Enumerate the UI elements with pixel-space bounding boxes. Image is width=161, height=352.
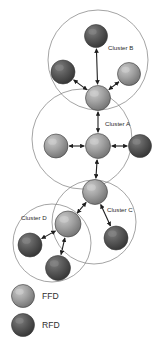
node-b-left-rfd xyxy=(51,60,75,84)
node-c-right-rfd-body xyxy=(104,226,128,250)
node-d-hub-ffd xyxy=(55,211,81,237)
node-a-right-rfd-highlight xyxy=(132,139,140,145)
node-d-bottom-rfd xyxy=(46,256,71,281)
label-cluster-b: Cluster B xyxy=(108,44,133,51)
node-b-top-rfd xyxy=(85,25,108,48)
node-a-left-ffd xyxy=(44,134,68,158)
node-b-hub-ffd-body xyxy=(86,86,111,111)
node-b-hub-ffd-highlight xyxy=(90,90,99,97)
node-c-right-rfd-highlight xyxy=(108,231,117,237)
legend-layer: FFDRFD xyxy=(12,285,60,337)
node-a-hub-ffd xyxy=(86,134,111,159)
node-d-bottom-rfd-highlight xyxy=(50,260,59,267)
legend-swatch-rfd-body xyxy=(12,314,35,337)
node-d-left-rfd-body xyxy=(18,233,42,257)
node-d-hub-ffd-body xyxy=(55,211,81,237)
legend-swatch-rfd xyxy=(12,314,35,337)
node-b-left-rfd-highlight xyxy=(55,65,64,71)
node-c-hub-ffd-body xyxy=(83,180,108,205)
node-a-right-rfd-body xyxy=(129,135,152,158)
node-b-right-ffd-highlight xyxy=(121,67,129,73)
legend-swatch-rfd-highlight xyxy=(15,318,23,324)
node-d-hub-ffd-highlight xyxy=(59,216,68,223)
node-b-right-ffd xyxy=(118,63,141,86)
legend-label-ffd: FFD xyxy=(42,291,59,301)
legend-label-rfd: RFD xyxy=(42,320,60,330)
node-layer xyxy=(18,25,152,281)
cluster-network-figure: Cluster BCluster ACluster CCluster D FFD… xyxy=(0,0,161,352)
node-a-right-rfd xyxy=(129,135,152,158)
node-c-hub-ffd xyxy=(83,180,108,205)
edge-d-hub-to-d-left xyxy=(42,231,56,239)
node-d-left-rfd-highlight xyxy=(22,238,31,244)
edge-b-hub-to-b-right xyxy=(109,82,119,90)
node-d-bottom-rfd-body xyxy=(46,256,71,281)
cluster-label-layer: Cluster BCluster ACluster CCluster D xyxy=(21,44,133,221)
edge-c-hub-to-d-hub xyxy=(77,202,86,213)
node-b-left-rfd-body xyxy=(51,60,75,84)
node-a-hub-ffd-body xyxy=(86,134,111,159)
node-b-top-rfd-body xyxy=(85,25,108,48)
node-c-right-rfd xyxy=(104,226,128,250)
node-b-top-rfd-highlight xyxy=(88,29,96,35)
node-d-left-rfd xyxy=(18,233,42,257)
node-a-hub-ffd-highlight xyxy=(90,138,99,145)
edge-b-hub-to-b-top xyxy=(96,49,97,85)
node-c-hub-ffd-highlight xyxy=(87,184,96,191)
node-a-left-ffd-body xyxy=(44,134,68,158)
node-b-right-ffd-body xyxy=(118,63,141,86)
label-cluster-c: Cluster C xyxy=(107,206,133,213)
edge-b-hub-to-b-left xyxy=(74,80,87,90)
legend-swatch-ffd-body xyxy=(12,285,35,308)
legend-swatch-ffd-highlight xyxy=(15,289,23,295)
label-cluster-a: Cluster A xyxy=(105,120,131,127)
node-b-hub-ffd xyxy=(86,86,111,111)
node-a-left-ffd-highlight xyxy=(48,139,57,145)
edge-a-hub-to-c-hub xyxy=(96,160,97,179)
diagram-canvas: Cluster BCluster ACluster CCluster D FFD… xyxy=(0,0,161,352)
legend-swatch-ffd xyxy=(12,285,35,308)
label-cluster-d: Cluster D xyxy=(21,214,47,221)
